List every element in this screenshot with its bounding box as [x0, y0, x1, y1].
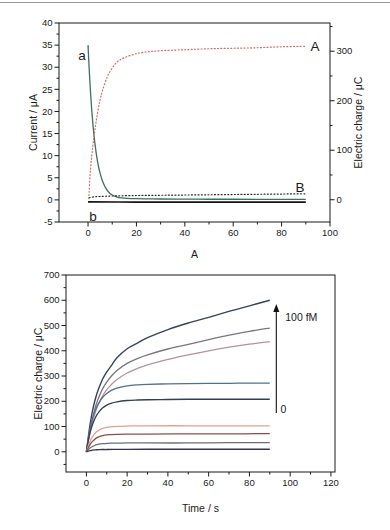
- y-tick-label: 40: [42, 17, 53, 28]
- series-B: [89, 194, 306, 198]
- y-tick-label: 400: [44, 345, 60, 356]
- y-right-tick-label: 200: [337, 95, 353, 106]
- x-tick-label: 0: [84, 477, 89, 488]
- series-curve-9: [86, 449, 269, 452]
- x-tick-label: 40: [180, 227, 191, 238]
- annotation-b: B: [295, 180, 304, 195]
- series-curve-4: [86, 383, 269, 452]
- x-tick-label: 20: [122, 477, 133, 488]
- annotation-100-fm: 100 fM: [285, 311, 317, 323]
- top-chart: 020406080100-505101520253035400100200300…: [0, 0, 390, 268]
- y-tick-label: 300: [44, 370, 60, 381]
- y-tick-label: 0: [54, 446, 59, 457]
- x-tick-label: 0: [85, 227, 90, 238]
- x-tick-label: 60: [228, 227, 239, 238]
- x-tick-label: 40: [163, 477, 174, 488]
- y-tick-label: 500: [44, 320, 60, 331]
- figure-page: 020406080100-505101520253035400100200300…: [0, 0, 390, 530]
- plot-box: [59, 23, 330, 222]
- x-tick-label: 120: [323, 477, 339, 488]
- series-curve-3: [86, 342, 269, 452]
- y-tick-label: 600: [44, 294, 60, 305]
- y-axis-label-left: Current / μA: [27, 94, 39, 151]
- y-tick-label: 5: [47, 172, 52, 183]
- y-right-tick-label: 100: [337, 144, 353, 155]
- x-tick-label: 60: [203, 477, 214, 488]
- x-tick-label: 100: [282, 477, 298, 488]
- x-axis-label: Time / s: [182, 502, 219, 514]
- x-tick-label: 100: [322, 227, 338, 238]
- y-tick-label: 35: [42, 39, 53, 50]
- arrow-head-icon: [273, 304, 279, 312]
- series-curve-6: [86, 426, 269, 452]
- series-curve-1: [86, 300, 269, 452]
- annotation-a: a: [78, 48, 86, 63]
- y-right-tick-label: 300: [337, 45, 353, 56]
- x-tick-label: 80: [276, 227, 287, 238]
- annotation-b: b: [89, 209, 97, 224]
- y-tick-label: 15: [42, 128, 53, 139]
- series-A: [89, 46, 306, 198]
- y-tick-label: 100: [44, 421, 60, 432]
- annotation-0: 0: [280, 403, 286, 415]
- y-tick-label: 25: [42, 84, 53, 95]
- y-tick-label: 30: [42, 61, 53, 72]
- x-tick-label: 80: [244, 477, 255, 488]
- x-tick-label: 20: [131, 227, 142, 238]
- y-tick-label: 0: [47, 194, 52, 205]
- y-axis-label-left: Electric charge / μC: [32, 327, 44, 419]
- y-tick-label: 20: [42, 106, 53, 117]
- y-axis-label-right: Electric charge / μC: [352, 76, 364, 168]
- y-tick-label: 200: [44, 395, 60, 406]
- page-top-rule: [0, 2, 390, 3]
- bottom-chart: 0204060801001200100200300400500600700Tim…: [0, 268, 390, 530]
- series-curve-8: [86, 443, 269, 452]
- y-tick-label: 700: [44, 269, 60, 280]
- x-axis-label: A: [191, 248, 198, 260]
- y-tick-label: 10: [42, 150, 53, 161]
- y-tick-label: -5: [44, 216, 52, 227]
- y-right-tick-label: 0: [337, 194, 342, 205]
- annotation-a: A: [310, 39, 319, 54]
- series-a: [88, 45, 306, 199]
